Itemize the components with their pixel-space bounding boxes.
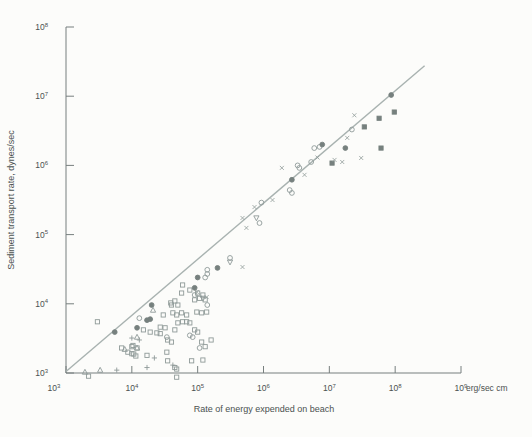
data-point-open-triangle-up	[134, 334, 139, 339]
data-point-x-cross	[303, 173, 307, 177]
data-point-plus	[114, 368, 119, 373]
data-point-open-triangle-up	[98, 367, 103, 372]
data-point-open-square	[141, 328, 145, 332]
data-point-open-square	[209, 338, 213, 342]
data-point-open-square	[179, 291, 183, 295]
x-tick-label: 108	[389, 383, 402, 394]
data-points	[82, 93, 396, 380]
axis-ticks: 103104105106107108109103104105106107108	[35, 22, 468, 394]
data-point-open-square	[175, 375, 179, 379]
data-point-open-square	[200, 311, 204, 315]
data-point-open-square	[158, 325, 162, 329]
data-point-filled-circle	[195, 275, 200, 280]
x-tick-label: 106	[257, 383, 270, 394]
scatter-plot-figure: 103104105106107108109103104105106107108 …	[0, 0, 532, 437]
data-point-open-square	[130, 345, 134, 349]
data-point-open-triangle-up	[150, 307, 155, 312]
data-point-x-cross	[280, 166, 284, 170]
data-point-x-cross	[352, 113, 356, 117]
data-point-open-square	[165, 350, 169, 354]
y-axis-title: Sediment transport rate, dynes/sec	[6, 130, 16, 270]
data-point-open-square	[188, 288, 192, 292]
x-tick-label: 105	[191, 383, 204, 394]
data-point-open-square	[185, 313, 189, 317]
data-point-filled-square	[379, 146, 383, 150]
data-point-open-square	[161, 313, 165, 317]
data-point-x-cross	[340, 160, 344, 164]
regression-line	[66, 66, 425, 372]
data-point-open-square	[176, 303, 180, 307]
fit-line	[66, 66, 425, 372]
data-point-open-square	[176, 321, 180, 325]
y-tick-label: 104	[35, 298, 48, 309]
data-point-filled-circle	[112, 330, 117, 335]
data-point-open-square	[173, 299, 177, 303]
data-point-x-cross	[359, 156, 363, 160]
data-point-open-square	[180, 320, 184, 324]
data-point-x-cross	[271, 198, 275, 202]
data-point-open-square	[131, 343, 135, 347]
data-point-filled-square	[362, 125, 366, 129]
data-point-open-square	[193, 298, 197, 302]
data-point-open-square	[163, 326, 167, 330]
data-point-filled-circle	[389, 93, 394, 98]
data-point-plus	[137, 337, 142, 342]
data-point-filled-circle	[192, 285, 197, 290]
data-point-open-circle	[137, 316, 142, 321]
data-point-open-square	[166, 359, 170, 363]
data-point-open-triangle-down	[254, 216, 259, 221]
data-point-open-square	[205, 310, 209, 314]
data-point-open-square	[195, 310, 199, 314]
y-tick-label: 106	[35, 160, 48, 171]
y-tick-label: 103	[35, 368, 48, 379]
data-point-plus	[144, 365, 149, 370]
data-point-filled-circle	[148, 317, 153, 322]
data-point-open-square	[86, 374, 90, 378]
data-point-x-cross	[244, 226, 248, 230]
x-tick-label: 104	[125, 383, 138, 394]
data-point-x-cross	[345, 136, 349, 140]
y-tick-label: 105	[35, 229, 48, 240]
x-tick-label: 103	[48, 383, 61, 394]
y-tick-label: 108	[35, 22, 48, 33]
data-point-filled-square	[377, 116, 381, 120]
data-point-plus	[129, 335, 134, 340]
data-point-open-square	[148, 330, 152, 334]
y-tick-label: 107	[35, 91, 48, 102]
x-axis-unit-label: erg/sec cm	[466, 383, 508, 393]
data-point-x-cross	[241, 265, 245, 269]
data-point-open-square	[201, 358, 205, 362]
data-point-open-square	[180, 283, 184, 287]
data-point-filled-square	[330, 161, 334, 165]
figure-canvas: 103104105106107108109103104105106107108 …	[0, 0, 532, 437]
data-point-filled-square	[392, 110, 396, 114]
data-point-open-circle	[164, 335, 169, 340]
data-point-x-cross	[253, 205, 257, 209]
data-point-open-square	[203, 345, 207, 349]
data-point-open-square	[95, 320, 99, 324]
data-point-open-circle	[205, 303, 210, 308]
data-point-filled-circle	[343, 146, 348, 151]
data-point-open-circle	[257, 221, 262, 226]
data-point-x-cross	[241, 216, 245, 220]
data-point-open-triangle-up	[122, 347, 127, 352]
data-point-filled-circle	[215, 266, 220, 271]
data-point-filled-circle	[135, 325, 140, 330]
data-point-open-square	[200, 340, 204, 344]
data-point-filled-circle	[289, 177, 294, 182]
data-point-open-square	[173, 328, 177, 332]
x-axis-title: Rate of energy expended on beach	[194, 404, 335, 414]
data-point-open-circle	[197, 346, 202, 351]
data-point-filled-circle	[149, 303, 154, 308]
data-point-open-square	[179, 311, 183, 315]
data-point-open-square	[190, 359, 194, 363]
data-point-plus	[152, 355, 157, 360]
data-point-filled-circle	[320, 142, 325, 147]
data-point-open-square	[145, 353, 149, 357]
data-point-open-circle	[312, 146, 317, 151]
x-tick-label: 107	[323, 383, 336, 394]
